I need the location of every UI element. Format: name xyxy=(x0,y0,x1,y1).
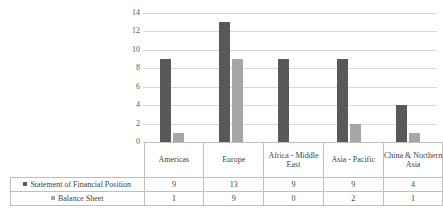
cell-r0-c4: 4 xyxy=(383,178,443,192)
y-tick-label-10: 10 xyxy=(132,46,140,54)
bar-1-4 xyxy=(396,105,407,142)
column-header-0: Americas xyxy=(144,143,204,178)
column-header-2: Africa - Middle East xyxy=(264,143,324,178)
bar-1-2 xyxy=(278,59,289,142)
table-row: Statement of Financial Position913994 xyxy=(11,178,443,192)
table-row: Balance Sheet19021 xyxy=(11,192,443,206)
y-tick-label-8: 8 xyxy=(136,64,140,72)
table-body: Statement of Financial Position913994Bal… xyxy=(11,178,443,206)
bar-1-1 xyxy=(219,22,230,142)
cell-r1-c4: 1 xyxy=(383,192,443,206)
bar-2-0 xyxy=(173,133,184,142)
bar-2-4 xyxy=(409,133,420,142)
legend-text-1: Balance Sheet xyxy=(58,194,104,203)
y-tick-label-2: 2 xyxy=(136,120,140,128)
column-header-4: China & Northern Asia xyxy=(383,143,443,178)
cell-r1-c2: 0 xyxy=(264,192,324,206)
legend-label-1: Balance Sheet xyxy=(11,192,145,206)
legend-swatch-icon-0 xyxy=(23,182,27,186)
cell-r1-c3: 2 xyxy=(323,192,383,206)
legend-label-0: Statement of Financial Position xyxy=(11,178,145,192)
y-axis: 14121086420 xyxy=(120,13,140,142)
cell-r1-c1: 9 xyxy=(204,192,264,206)
bar-1-3 xyxy=(337,59,348,142)
table-header: AmericasEuropeAfrica - Middle EastAsia -… xyxy=(11,143,443,178)
data-table: AmericasEuropeAfrica - Middle EastAsia -… xyxy=(10,142,443,206)
cell-r1-c0: 1 xyxy=(144,192,204,206)
bars-layer xyxy=(143,13,437,142)
cell-r0-c3: 9 xyxy=(323,178,383,192)
y-tick-label-12: 12 xyxy=(132,27,140,35)
y-tick-label-6: 6 xyxy=(136,83,140,91)
plot-area xyxy=(143,13,437,142)
bar-1-0 xyxy=(160,59,171,142)
table-header-row: AmericasEuropeAfrica - Middle EastAsia -… xyxy=(11,143,443,178)
cell-r0-c0: 9 xyxy=(144,178,204,192)
column-header-1: Europe xyxy=(204,143,264,178)
y-tick-label-14: 14 xyxy=(132,9,140,17)
bar-2-1 xyxy=(232,59,243,142)
legend-text-0: Statement of Financial Position xyxy=(30,180,131,189)
y-tick-label-4: 4 xyxy=(136,101,140,109)
cell-r0-c2: 9 xyxy=(264,178,324,192)
cell-r0-c1: 13 xyxy=(204,178,264,192)
bar-2-3 xyxy=(350,124,361,142)
column-header-3: Asia - Pacific xyxy=(323,143,383,178)
legend-swatch-icon-1 xyxy=(51,196,55,200)
legend-header-blank xyxy=(11,143,145,178)
